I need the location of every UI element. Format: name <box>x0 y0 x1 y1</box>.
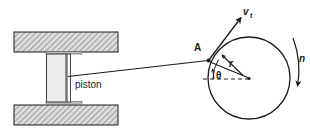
piston-label: piston <box>75 79 102 90</box>
velocity-subscript-label: t <box>250 12 253 19</box>
connecting-rod <box>68 61 208 77</box>
velocity-label: v <box>243 6 250 17</box>
slider-crank-diagram: piston A v t r θ n <box>0 0 310 135</box>
piston-rod <box>67 54 71 102</box>
cylinder-bottom-block <box>14 105 118 125</box>
cylinder-top-block <box>14 32 118 52</box>
crank-center-hub <box>247 77 250 80</box>
rotation-label: n <box>299 53 305 64</box>
cylinder-assembly <box>14 32 118 125</box>
theta-label: θ <box>216 70 221 81</box>
point-a-label: A <box>194 42 201 53</box>
radius-label: r <box>229 58 234 69</box>
bottom-block-hatched-rect <box>14 105 118 125</box>
piston-body <box>47 54 67 102</box>
top-block-hatched-rect <box>14 32 118 52</box>
diagram-canvas: piston A v t r θ n <box>0 0 310 135</box>
